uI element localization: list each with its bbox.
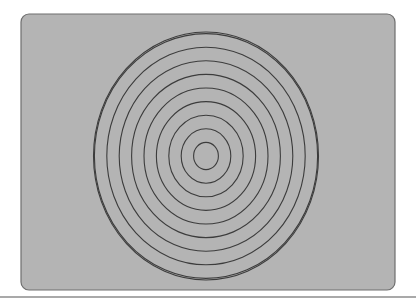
figure-root [0, 0, 416, 305]
concentric-circles-figure [0, 0, 416, 305]
concentric-circles-panel [21, 14, 395, 290]
